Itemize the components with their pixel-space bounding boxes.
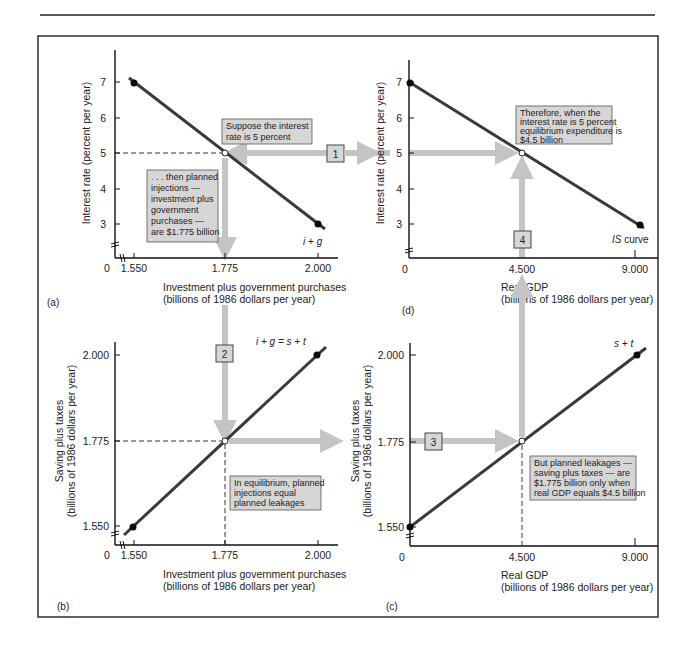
panel-b: 2.000 1.775 1.550 0 1.550 1.775 2.000 Sa…: [53, 305, 346, 612]
y-tick-5: 5: [100, 147, 106, 159]
x-tick-0: 0: [402, 263, 408, 275]
x-tick-9000: 9.000: [622, 551, 648, 563]
is-curve-derivation-figure: 7 6 5 4 3 0 1.550 1.775 2.000 Interest r…: [0, 0, 676, 650]
y-tick-6: 6: [396, 112, 402, 124]
x-tick-9000: 9.000: [622, 263, 648, 275]
svg-text:rate is 5 percent: rate is 5 percent: [226, 132, 291, 142]
y-axis-label: Interest rate (percent per year): [374, 82, 386, 224]
x-tick-2000: 2.000: [305, 549, 331, 561]
curve-label: i + g = s + t: [256, 336, 307, 347]
x-tick-0: 0: [104, 549, 110, 561]
x-tick-1550: 1.550: [121, 262, 147, 274]
note-suppose-interest-rate: Suppose the interest rate is 5 percent: [222, 119, 312, 144]
curve-label: s + t: [614, 338, 634, 349]
y-tick-2000: 2.000: [83, 349, 109, 361]
panel-label-c: (c): [386, 601, 398, 612]
y-tick-1775: 1.775: [378, 436, 404, 448]
data-point: [637, 222, 644, 229]
x-axis-label-line2: (billions of 1986 dollars per year): [163, 580, 315, 592]
y-axis-label-line1: Saving plus taxes: [53, 400, 65, 482]
svg-text:Suppose the interest: Suppose the interest: [226, 121, 309, 131]
svg-text:$1.775 billion only when: $1.775 billion only when: [534, 478, 630, 488]
x-tick-2000: 2.000: [305, 262, 331, 274]
y-tick-5: 5: [396, 147, 402, 159]
y-tick-2000: 2.000: [378, 349, 404, 361]
x-tick-4500: 4.500: [509, 551, 535, 563]
y-tick-4: 4: [100, 183, 106, 195]
y-axis-label-line1: Saving plus taxes: [349, 400, 361, 482]
y-tick-3: 3: [396, 218, 402, 230]
panel-a: 7 6 5 4 3 0 1.550 1.775 2.000 Interest r…: [47, 50, 390, 308]
svg-text:$4.5 billion: $4.5 billion: [520, 135, 563, 145]
x-axis-label-line1: Real GDP: [501, 569, 548, 581]
svg-text:real GDP equals $4.5 billion: real GDP equals $4.5 billion: [534, 488, 645, 498]
curve-label: IS curve: [612, 234, 649, 245]
panel-label-d: (d): [402, 305, 414, 316]
y-tick-6: 6: [100, 112, 106, 124]
svg-text:1: 1: [333, 149, 339, 160]
panel-label-b: (b): [57, 601, 69, 612]
x-tick-0: 0: [104, 262, 110, 274]
svg-text:In equilibrium, planned: In equilibrium, planned: [234, 478, 325, 488]
y-tick-7: 7: [100, 76, 106, 88]
note-in-equilibrium: In equilibrium, planned injections equal…: [230, 476, 325, 510]
x-tick-1775: 1.775: [212, 549, 238, 561]
svg-text:investment plus: investment plus: [151, 194, 214, 204]
equilibrium-point: [222, 438, 228, 444]
data-point: [130, 524, 137, 531]
y-tick-1550: 1.550: [83, 520, 109, 532]
y-tick-1550: 1.550: [378, 521, 404, 533]
data-point: [634, 352, 641, 359]
y-axis-label: Interest rate (percent per year): [80, 82, 92, 224]
equilibrium-point: [519, 150, 525, 156]
note-therefore-equilibrium: Therefore, when the interest rate is 5 p…: [516, 106, 623, 145]
svg-text:. . . then planned: . . . then planned: [151, 172, 218, 182]
equilibrium-point: [222, 150, 228, 156]
x-axis-label-line1: Investment plus government purchases: [163, 568, 346, 580]
note-planned-injections: . . . then planned injections — investme…: [147, 170, 220, 242]
data-point: [131, 80, 138, 87]
svg-text:4: 4: [520, 235, 526, 246]
x-tick-1550: 1.550: [121, 549, 147, 561]
svg-text:are $1.775 billion: are $1.775 billion: [151, 227, 220, 237]
svg-text:planned leakages: planned leakages: [234, 498, 305, 508]
x-tick-4500: 4.500: [509, 263, 535, 275]
x-axis-label-line2: (billions of 1986 dollars per year): [163, 293, 315, 305]
step-3-badge: 3: [425, 433, 442, 450]
y-axis-label-line2: (billions of 1986 dollars per year): [65, 365, 77, 517]
svg-text:purchases —: purchases —: [151, 216, 204, 226]
svg-text:injections equal: injections equal: [234, 488, 296, 498]
panel-c: 2.000 1.775 1.550 0 4.500 9.000 Saving p…: [349, 285, 658, 612]
svg-text:But planned leakages —: But planned leakages —: [534, 458, 632, 468]
x-tick-0: 0: [399, 551, 405, 563]
svg-text:government: government: [151, 205, 199, 215]
data-point: [407, 524, 414, 531]
note-planned-leakages: But planned leakages — saving plus taxes…: [530, 456, 645, 500]
y-tick-1775: 1.775: [83, 435, 109, 447]
y-axis-label-line2: (billions of 1986 dollars per year): [361, 365, 373, 517]
step-1-badge: 1: [327, 145, 344, 162]
x-tick-1775: 1.775: [212, 262, 238, 274]
panel-label-a: (a): [47, 297, 59, 308]
panel-d: 7 6 5 4 3 0 4.500 9.000 Interest rate (p…: [344, 60, 658, 316]
x-axis-label-line2: (billions of 1986 dollars per year): [501, 581, 653, 593]
data-point: [407, 80, 414, 87]
step-2-badge: 2: [216, 345, 233, 362]
curve-label: i + g: [303, 236, 323, 247]
svg-text:3: 3: [431, 437, 437, 448]
x-axis-label-line1: Investment plus government purchases: [163, 281, 346, 293]
data-point: [315, 221, 322, 228]
y-tick-4: 4: [396, 183, 402, 195]
data-point: [314, 352, 321, 359]
svg-text:injections —: injections —: [151, 183, 200, 193]
y-tick-3: 3: [100, 218, 106, 230]
svg-text:saving plus taxes — are: saving plus taxes — are: [534, 468, 630, 478]
svg-text:2: 2: [222, 349, 228, 360]
y-tick-7: 7: [396, 76, 402, 88]
equilibrium-point: [519, 438, 525, 444]
step-4-badge: 4: [514, 231, 531, 248]
